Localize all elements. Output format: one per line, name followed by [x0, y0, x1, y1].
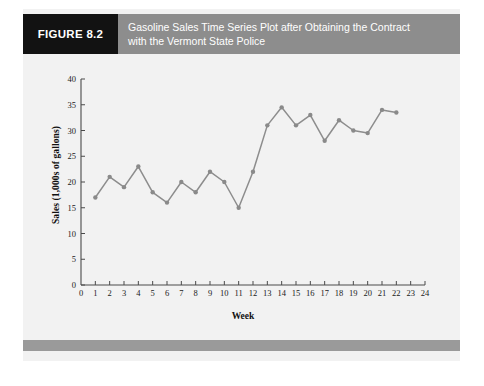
figure-page: FIGURE 8.2 Gasoline Sales Time Series Pl…	[0, 0, 484, 386]
data-point	[136, 164, 140, 168]
sales-series-markers	[93, 105, 398, 210]
x-tick-label: 23	[406, 288, 415, 298]
y-tick-label: 15	[68, 203, 77, 213]
data-point	[279, 105, 283, 109]
data-point	[365, 131, 369, 135]
x-tick-label: 16	[306, 288, 315, 298]
y-tick-label: 35	[68, 100, 77, 110]
chart-area: Sales (1,000s of gallons) Week 051015202…	[53, 71, 433, 333]
y-tick-label: 30	[68, 126, 77, 136]
figure-bottom-band	[23, 340, 460, 351]
y-axis-ticks: 0510152025303540	[68, 74, 86, 290]
figure-panel: FIGURE 8.2 Gasoline Sales Time Series Pl…	[23, 9, 460, 361]
x-tick-label: 13	[263, 288, 272, 298]
figure-title-band: Gasoline Sales Time Series Plot after Ob…	[118, 14, 460, 54]
x-tick-label: 7	[179, 288, 183, 298]
x-tick-label: 8	[194, 288, 198, 298]
x-tick-label: 1	[93, 288, 97, 298]
y-tick-label: 20	[68, 177, 77, 187]
x-tick-label: 20	[363, 288, 372, 298]
data-point	[337, 118, 341, 122]
y-tick-label: 10	[68, 229, 77, 239]
x-tick-label: 5	[151, 288, 155, 298]
data-point	[222, 180, 226, 184]
y-tick-label: 0	[72, 280, 76, 290]
data-point	[351, 128, 355, 132]
x-tick-label: 18	[335, 288, 344, 298]
data-point	[265, 123, 269, 127]
data-point	[165, 200, 169, 204]
x-axis-title: Week	[53, 311, 433, 321]
x-tick-label: 4	[136, 288, 141, 298]
data-point	[122, 185, 126, 189]
data-point	[322, 139, 326, 143]
data-point	[294, 123, 298, 127]
x-tick-label: 10	[220, 288, 229, 298]
y-tick-label: 40	[68, 74, 77, 84]
x-tick-label: 22	[392, 288, 401, 298]
y-tick-label: 25	[68, 151, 77, 161]
data-point	[107, 175, 111, 179]
figure-title-line-2: with the Vermont State Police	[128, 34, 410, 48]
x-tick-label: 11	[235, 288, 243, 298]
x-tick-label: 19	[349, 288, 358, 298]
y-tick-label: 5	[72, 254, 76, 264]
x-tick-label: 21	[378, 288, 387, 298]
y-axis-group: 0510152025303540	[68, 74, 86, 290]
data-point	[380, 108, 384, 112]
x-tick-label: 15	[292, 288, 301, 298]
x-tick-label: 17	[320, 288, 329, 298]
x-axis-group: 0123456789101112131415161718192021222324	[79, 281, 430, 298]
x-tick-label: 9	[208, 288, 212, 298]
sales-series-line	[95, 107, 396, 207]
x-tick-label: 3	[122, 288, 126, 298]
x-tick-label: 6	[165, 288, 169, 298]
figure-title-line-1: Gasoline Sales Time Series Plot after Ob…	[128, 20, 410, 34]
x-tick-label: 2	[108, 288, 112, 298]
line-chart-plot: 0510152025303540 01234567891011121314151…	[53, 71, 433, 311]
data-point	[394, 110, 398, 114]
data-point	[93, 195, 97, 199]
data-point	[251, 170, 255, 174]
data-point	[208, 170, 212, 174]
data-point	[193, 190, 197, 194]
x-axis-ticks: 0123456789101112131415161718192021222324	[79, 281, 430, 298]
data-point	[179, 180, 183, 184]
figure-header: FIGURE 8.2 Gasoline Sales Time Series Pl…	[23, 14, 460, 54]
x-tick-label: 0	[79, 288, 83, 298]
figure-number-tag: FIGURE 8.2	[23, 14, 118, 54]
x-tick-label: 24	[421, 288, 430, 298]
data-point	[308, 113, 312, 117]
data-point	[150, 190, 154, 194]
data-point	[236, 206, 240, 210]
x-tick-label: 12	[249, 288, 258, 298]
x-tick-label: 14	[277, 288, 286, 298]
